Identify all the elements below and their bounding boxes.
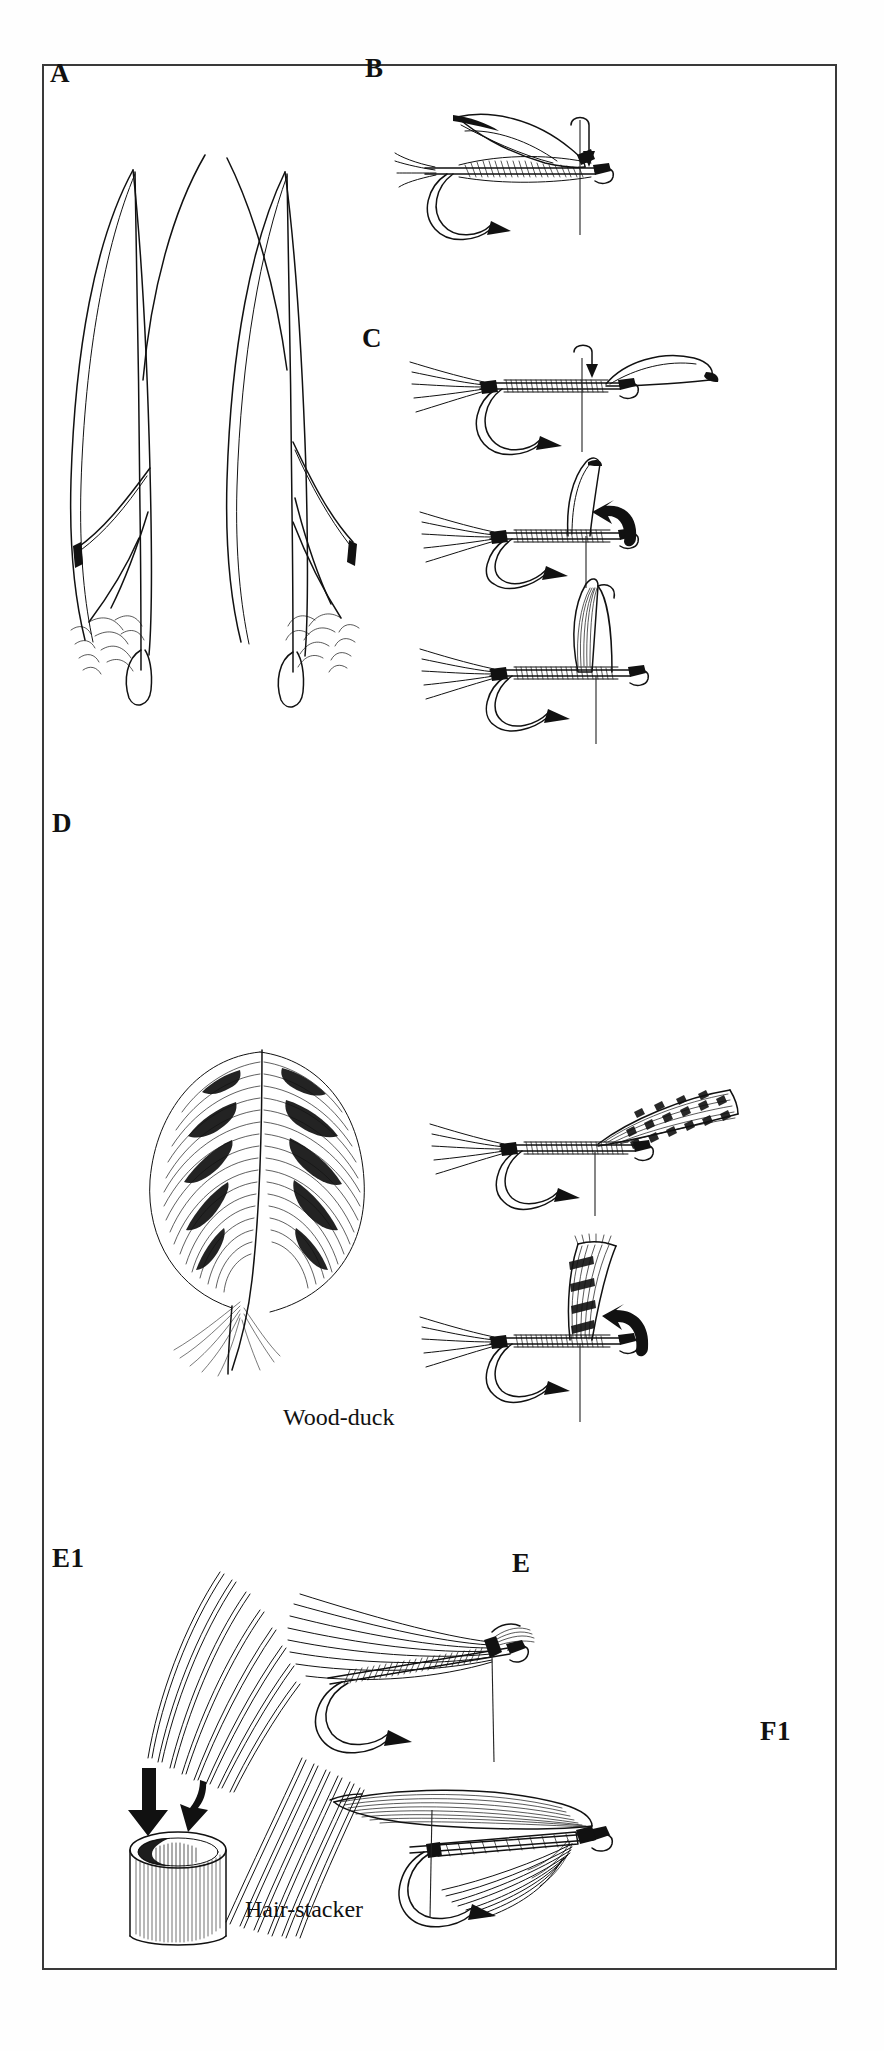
panel-label-e: E — [512, 1550, 531, 1577]
panel-d-feather-artwork — [140, 1040, 400, 1380]
panel-label-a: A — [50, 60, 70, 87]
panel-d-step1-artwork — [430, 1090, 760, 1240]
panel-label-c: C — [362, 325, 382, 352]
panel-f1-artwork — [300, 1740, 750, 1940]
panel-a-artwork — [55, 150, 375, 710]
panel-label-e1: E1 — [52, 1545, 85, 1572]
caption-hair-stacker: Hair-stacker — [245, 1897, 363, 1921]
panel-d-step2-artwork — [420, 1240, 750, 1430]
panel-b-artwork — [395, 95, 655, 255]
panel-c-step1-artwork — [410, 340, 720, 460]
panel-c-step3-artwork — [420, 580, 740, 750]
panel-label-f1: F1 — [760, 1718, 791, 1745]
panel-label-b: B — [365, 55, 384, 82]
panel-label-d: D — [52, 810, 72, 837]
caption-wood-duck: Wood-duck — [283, 1405, 394, 1429]
illustration-plate: A B C D E1 E F1 Wood-duck Hair-stacker — [0, 0, 884, 2051]
panel-c-step2-artwork — [420, 460, 730, 590]
